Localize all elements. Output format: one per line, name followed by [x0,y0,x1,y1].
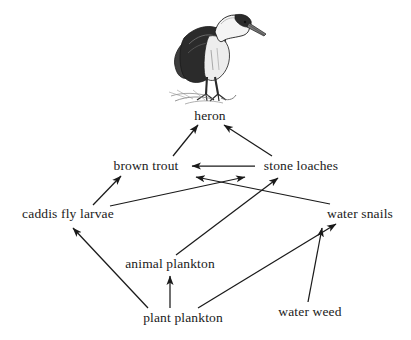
food-web-arrow [196,177,330,204]
food-web-arrow [224,125,272,156]
food-web-arrow [176,178,278,255]
node-label-plant-plankton: plant plankton [143,311,223,325]
node-label-water-snails: water snails [327,207,393,221]
food-web-diagram: heron brown trout stone loaches caddis f… [0,0,411,340]
node-label-stone-loaches: stone loaches [264,159,338,173]
node-label-brown-trout: brown trout [113,159,178,173]
node-label-caddis-fly-larvae: caddis fly larvae [22,207,114,221]
food-web-arrow [93,176,121,205]
node-label-animal-plankton: animal plankton [125,257,215,271]
food-web-arrow [110,177,245,206]
heron-illustration [163,8,267,108]
node-label-water-weed: water weed [278,305,341,319]
node-label-heron: heron [194,109,226,123]
food-web-arrow [173,125,198,156]
